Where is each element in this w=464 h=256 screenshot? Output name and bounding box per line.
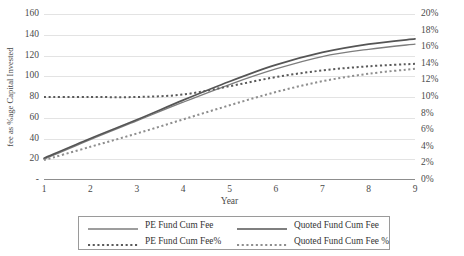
legend-line-swatch <box>236 220 288 230</box>
series-line <box>44 64 415 97</box>
secondary-y-axis-tick-label: 6% <box>421 125 434 135</box>
y-axis-tick-label: 160 <box>25 9 39 19</box>
secondary-y-axis-tick-label: 8% <box>421 109 434 119</box>
x-axis-tick-label: 6 <box>274 185 279 195</box>
legend-item-label: PE Fund Cum Fee% <box>145 236 221 246</box>
legend-line-swatch <box>87 236 139 246</box>
legend-item-label: Quoted Fund Cum Fee <box>294 220 379 230</box>
plot-area: -20406080100120140160 0%2%4%6%8%10%12%14… <box>44 14 415 180</box>
legend-item[interactable]: PE Fund Cum Fee <box>79 220 228 230</box>
y-axis-title-text: fee as %age Capital Invested <box>5 47 15 146</box>
x-axis-title-text: Year <box>221 196 239 206</box>
legend-item[interactable]: PE Fund Cum Fee% <box>79 236 228 246</box>
series-line <box>44 39 415 158</box>
secondary-y-axis-tick-label: 18% <box>421 26 438 36</box>
x-axis-tick-label: 5 <box>227 185 232 195</box>
x-axis-tick-label: 4 <box>181 185 186 195</box>
y-axis-tick-label: 120 <box>25 51 39 61</box>
x-axis-title: Year <box>44 196 415 206</box>
x-axis-tick-label: 8 <box>366 185 371 195</box>
secondary-y-axis-tick-label: 14% <box>421 59 438 69</box>
x-axis-tick-label: 7 <box>320 185 325 195</box>
secondary-y-axis-tick-label: 10% <box>421 92 438 102</box>
secondary-y-axis-tick-label: 0% <box>421 175 434 185</box>
legend-item-label: Quoted Fund Cum Fee % <box>294 236 389 246</box>
x-axis-tick-label: 1 <box>42 185 47 195</box>
x-axis-tick-label: 9 <box>413 185 418 195</box>
y-axis-title: fee as %age Capital Invested <box>3 14 16 180</box>
chart-legend: PE Fund Cum FeeQuoted Fund Cum FeePE Fun… <box>78 216 390 250</box>
legend-line-swatch <box>236 236 288 246</box>
secondary-y-axis-tick-label: 12% <box>421 76 438 86</box>
y-axis-tick-label: 20 <box>30 155 40 165</box>
y-axis-tick-label: 60 <box>30 113 40 123</box>
legend-item-label: PE Fund Cum Fee <box>145 220 213 230</box>
y-axis-tick-label: 80 <box>30 92 40 102</box>
x-axis-tick-label: 3 <box>134 185 139 195</box>
secondary-y-axis-tick-label: 4% <box>421 142 434 152</box>
legend-line-swatch <box>87 220 139 230</box>
series-lines <box>44 14 415 180</box>
legend-item[interactable]: Quoted Fund Cum Fee % <box>228 236 389 246</box>
secondary-y-axis-tick-label: 16% <box>421 42 438 52</box>
y-axis-tick-label: - <box>36 175 39 185</box>
series-line <box>44 44 415 159</box>
y-axis-tick-label: 40 <box>30 134 40 144</box>
y-axis-tick-label: 140 <box>25 30 39 40</box>
y-axis-tick-label: 100 <box>25 72 39 82</box>
x-axis-tick-label: 2 <box>88 185 93 195</box>
secondary-y-axis-tick-label: 20% <box>421 9 438 19</box>
chart-container: fee as %age Capital Invested -2040608010… <box>0 0 464 256</box>
legend-item[interactable]: Quoted Fund Cum Fee <box>228 220 389 230</box>
secondary-y-axis-tick-label: 2% <box>421 159 434 169</box>
series-line <box>44 69 415 160</box>
